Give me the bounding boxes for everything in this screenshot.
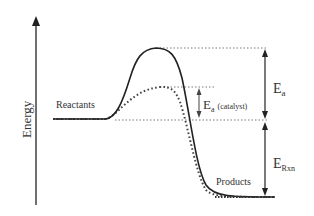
axis-label: Energy <box>19 100 34 138</box>
energy-diagram: Energy Reactants Products Ea Ea(catalyst… <box>0 0 314 216</box>
products-label: Products <box>216 176 251 187</box>
erxn-label: ERxn <box>273 156 295 173</box>
ea-arrow <box>262 49 268 119</box>
uncatalyzed-curve <box>53 48 275 197</box>
ea-catalyst-label: Ea(catalyst) <box>203 97 248 114</box>
ea-catalyst-arrow <box>197 88 202 118</box>
ea-label: Ea <box>273 81 286 98</box>
erxn-arrow <box>262 122 268 196</box>
reactants-label: Reactants <box>56 99 95 110</box>
axis-arrow-icon <box>32 16 40 26</box>
